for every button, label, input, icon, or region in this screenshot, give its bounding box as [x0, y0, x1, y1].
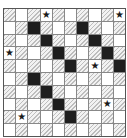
hatched-cell[interactable] [77, 35, 88, 47]
white-cell[interactable] [53, 73, 64, 85]
white-cell[interactable] [53, 124, 64, 136]
black-cell[interactable] [65, 60, 76, 72]
white-cell[interactable] [65, 9, 76, 21]
hatched-cell[interactable] [41, 73, 52, 85]
hatched-cell[interactable] [16, 22, 27, 34]
black-cell[interactable] [41, 35, 52, 47]
black-cell[interactable] [77, 22, 88, 34]
white-cell[interactable] [114, 86, 125, 98]
hatched-cell[interactable] [102, 9, 113, 21]
white-cell[interactable] [4, 22, 15, 34]
white-cell[interactable] [102, 22, 113, 34]
hatched-cell[interactable] [16, 47, 27, 59]
hatched-cell[interactable] [28, 9, 39, 21]
hatched-cell[interactable] [28, 35, 39, 47]
hatched-cell[interactable] [4, 111, 15, 123]
white-cell[interactable] [41, 60, 52, 72]
white-cell[interactable] [89, 86, 100, 98]
hatched-cell[interactable] [41, 99, 52, 111]
hatched-cell[interactable] [65, 22, 76, 34]
white-cell[interactable] [77, 47, 88, 59]
white-cell[interactable]: ★ [4, 47, 15, 59]
hatched-cell[interactable] [28, 86, 39, 98]
hatched-cell[interactable] [16, 73, 27, 85]
black-cell[interactable] [114, 60, 125, 72]
white-cell[interactable] [114, 111, 125, 123]
hatched-cell[interactable] [114, 47, 125, 59]
black-cell[interactable] [53, 99, 64, 111]
white-cell[interactable] [16, 60, 27, 72]
white-cell[interactable] [28, 99, 39, 111]
white-cell[interactable]: ★ [102, 99, 113, 111]
hatched-cell[interactable] [77, 111, 88, 123]
hatched-cell[interactable] [77, 9, 88, 21]
white-cell[interactable]: ★ [89, 60, 100, 72]
hatched-cell[interactable] [41, 124, 52, 136]
hatched-cell[interactable] [65, 99, 76, 111]
hatched-cell[interactable] [16, 124, 27, 136]
black-cell[interactable] [89, 35, 100, 47]
hatched-cell[interactable] [4, 86, 15, 98]
white-cell[interactable] [89, 111, 100, 123]
hatched-cell[interactable] [89, 99, 100, 111]
white-cell[interactable] [77, 73, 88, 85]
hatched-cell[interactable] [77, 86, 88, 98]
hatched-cell[interactable] [16, 99, 27, 111]
black-cell[interactable] [65, 111, 76, 123]
hatched-cell[interactable] [28, 60, 39, 72]
white-cell[interactable] [65, 86, 76, 98]
white-cell[interactable] [4, 99, 15, 111]
black-cell[interactable] [28, 22, 39, 34]
white-cell[interactable] [28, 124, 39, 136]
hatched-cell[interactable] [53, 60, 64, 72]
hatched-cell[interactable] [114, 124, 125, 136]
hatched-cell[interactable] [102, 86, 113, 98]
hatched-cell[interactable] [41, 47, 52, 59]
hatched-cell[interactable] [53, 111, 64, 123]
white-cell[interactable] [16, 86, 27, 98]
hatched-cell[interactable] [102, 35, 113, 47]
hatched-cell[interactable] [102, 111, 113, 123]
hatched-cell[interactable] [89, 124, 100, 136]
hatched-cell[interactable] [53, 35, 64, 47]
hatched-cell[interactable] [114, 99, 125, 111]
hatched-cell[interactable] [53, 86, 64, 98]
black-cell[interactable] [53, 47, 64, 59]
hatched-cell[interactable] [53, 9, 64, 21]
white-cell[interactable] [4, 73, 15, 85]
white-cell[interactable] [41, 111, 52, 123]
hatched-cell[interactable] [4, 60, 15, 72]
white-cell[interactable] [89, 9, 100, 21]
hatched-cell[interactable] [65, 73, 76, 85]
hatched-cell[interactable] [4, 9, 15, 21]
white-cell[interactable]: ★ [114, 9, 125, 21]
white-cell[interactable] [65, 35, 76, 47]
white-cell[interactable] [16, 35, 27, 47]
hatched-cell[interactable] [65, 124, 76, 136]
white-cell[interactable] [28, 47, 39, 59]
white-cell[interactable] [114, 35, 125, 47]
white-cell[interactable] [102, 73, 113, 85]
black-cell[interactable] [28, 73, 39, 85]
hatched-cell[interactable] [4, 35, 15, 47]
black-cell[interactable] [41, 86, 52, 98]
white-cell[interactable] [16, 9, 27, 21]
hatched-cell[interactable] [41, 22, 52, 34]
hatched-cell[interactable] [65, 47, 76, 59]
black-cell[interactable] [102, 47, 113, 59]
hatched-cell[interactable] [114, 73, 125, 85]
white-cell[interactable] [53, 22, 64, 34]
hatched-cell[interactable] [77, 60, 88, 72]
hatched-cell[interactable] [89, 73, 100, 85]
white-cell[interactable] [77, 124, 88, 136]
white-cell[interactable]: ★ [41, 9, 52, 21]
white-cell[interactable] [4, 124, 15, 136]
hatched-cell[interactable] [89, 47, 100, 59]
white-cell[interactable]: ★ [16, 111, 27, 123]
white-cell[interactable] [102, 124, 113, 136]
hatched-cell[interactable] [28, 111, 39, 123]
hatched-cell[interactable] [114, 22, 125, 34]
hatched-cell[interactable] [89, 22, 100, 34]
white-cell[interactable] [77, 99, 88, 111]
hatched-cell[interactable] [102, 60, 113, 72]
